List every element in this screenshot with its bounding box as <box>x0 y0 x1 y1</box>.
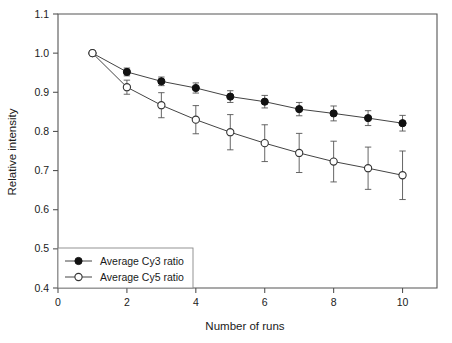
data-point <box>261 140 268 147</box>
data-point <box>227 129 234 136</box>
y-axis-title: Relative intensity <box>6 108 18 195</box>
legend-label: Average Cy3 ratio <box>100 255 184 267</box>
chart-legend: Average Cy3 ratioAverage Cy5 ratio <box>58 248 193 288</box>
y-tick-label: 0.6 <box>34 203 49 215</box>
data-point <box>399 120 406 127</box>
x-tick-label: 0 <box>55 296 61 308</box>
data-point <box>192 116 199 123</box>
data-point <box>192 84 199 91</box>
data-point <box>364 165 371 172</box>
legend-label: Average Cy5 ratio <box>100 271 184 283</box>
x-tick-label: 10 <box>397 296 409 308</box>
data-point <box>158 78 165 85</box>
series-cy3 <box>89 50 406 131</box>
x-tick-label: 2 <box>124 296 130 308</box>
data-point <box>123 84 130 91</box>
y-axis-ticks: 0.40.50.60.70.80.91.01.1 <box>34 8 58 294</box>
data-point <box>158 102 165 109</box>
data-point <box>89 50 96 57</box>
y-tick-label: 0.8 <box>34 125 49 137</box>
series-cy5 <box>89 50 406 200</box>
x-axis-ticks: 0246810 <box>55 288 408 308</box>
data-point <box>399 172 406 179</box>
data-point <box>123 68 130 75</box>
data-point <box>330 110 337 117</box>
data-point <box>296 149 303 156</box>
x-tick-label: 6 <box>262 296 268 308</box>
data-point <box>296 106 303 113</box>
y-tick-label: 0.4 <box>34 282 49 294</box>
x-tick-label: 8 <box>331 296 337 308</box>
data-point <box>330 158 337 165</box>
data-point <box>227 93 234 100</box>
x-axis-title: Number of runs <box>205 320 285 332</box>
chart-figure: 0246810 0.40.50.60.70.80.91.01.1 Average… <box>0 0 452 343</box>
y-tick-label: 0.7 <box>34 164 49 176</box>
data-point <box>261 98 268 105</box>
data-series-group <box>89 50 406 200</box>
plot-frame <box>58 14 437 288</box>
y-tick-label: 1.0 <box>34 47 49 59</box>
y-tick-label: 1.1 <box>34 8 49 20</box>
y-tick-label: 0.9 <box>34 86 49 98</box>
x-tick-label: 4 <box>193 296 199 308</box>
relative-intensity-line-chart: 0246810 0.40.50.60.70.80.91.01.1 Average… <box>0 0 452 343</box>
data-point <box>364 115 371 122</box>
y-tick-label: 0.5 <box>34 242 49 254</box>
